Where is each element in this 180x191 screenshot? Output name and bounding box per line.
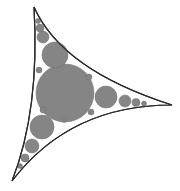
packed-circle [88, 109, 94, 115]
packed-circle [132, 99, 140, 107]
packed-circle [40, 107, 46, 113]
packed-circle [142, 101, 147, 106]
apollonian-gasket-diagram [0, 0, 180, 191]
packed-circle [36, 67, 42, 73]
packed-circle [119, 95, 131, 107]
packed-circle [25, 139, 39, 153]
packed-circle [95, 86, 117, 108]
packed-circle [62, 118, 67, 123]
packed-circle [36, 24, 44, 32]
packed-circle [37, 31, 49, 43]
packed-circle [86, 74, 92, 80]
packed-circle [36, 64, 94, 122]
packed-circle [30, 115, 54, 139]
packed-circle [42, 42, 68, 68]
packed-circle [21, 154, 29, 162]
